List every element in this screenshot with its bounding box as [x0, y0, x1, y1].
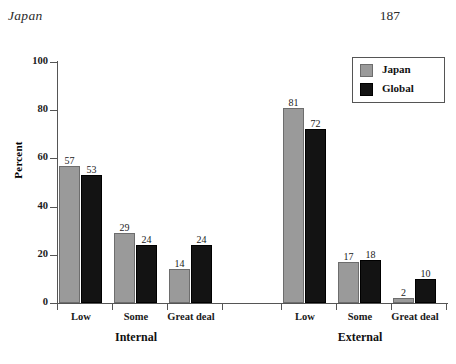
bar-global-internal-great-deal: 24: [191, 245, 212, 303]
y-tick-mark: [50, 207, 58, 208]
y-axis-line: [57, 61, 58, 304]
bar-global-external-low: 72: [305, 129, 326, 303]
bar-value-label: 24: [142, 234, 152, 245]
bar-value-label: 10: [421, 268, 431, 279]
bar-slot: 24: [136, 34, 157, 303]
x-tick-mark: [112, 304, 113, 310]
x-tick-mark: [222, 304, 223, 310]
legend-label: Global: [382, 82, 414, 94]
bar-chart-figure: Percent 020406080100 5753292414248172171…: [0, 34, 456, 364]
chart-legend: JapanGlobal: [352, 57, 445, 103]
y-tick-mark: [50, 62, 58, 63]
bar-slot: 72: [305, 34, 326, 303]
y-tick-label: 100: [2, 55, 48, 66]
legend-swatch-global: [360, 83, 373, 96]
x-group-label: External: [290, 330, 430, 345]
x-tick-mark: [446, 304, 447, 310]
bar-global-internal-low: 53: [81, 175, 102, 303]
bar-slot: 53: [81, 34, 102, 303]
bar-value-label: 14: [175, 258, 185, 269]
bar-slot: 57: [59, 34, 80, 303]
y-tick-label: 0: [2, 296, 48, 307]
legend-label: Japan: [382, 63, 411, 75]
bar-slot: 24: [191, 34, 212, 303]
y-tick-mark: [50, 255, 58, 256]
page-header: Japan 187: [0, 0, 456, 34]
x-tick-mark: [57, 304, 58, 310]
bar-global-external-great-deal: 10: [415, 279, 436, 303]
x-tick-mark: [336, 304, 337, 310]
bar-slot: 14: [169, 34, 190, 303]
bar-global-internal-some: 24: [136, 245, 157, 303]
bar-value-label: 24: [197, 234, 207, 245]
bar-value-label: 29: [120, 222, 130, 233]
bar-slot: 81: [283, 34, 304, 303]
bar-value-label: 57: [65, 155, 75, 166]
x-group-label: Internal: [66, 330, 206, 345]
bar-value-label: 2: [401, 287, 406, 298]
y-tick-label: 20: [2, 248, 48, 259]
bar-value-label: 53: [87, 164, 97, 175]
y-tick-label: 40: [2, 200, 48, 211]
running-head: Japan: [8, 8, 43, 24]
bar-japan-external-some: 17: [338, 262, 359, 303]
x-tick-mark: [167, 304, 168, 310]
bar-japan-internal-some: 29: [114, 233, 135, 303]
bar-japan-external-low: 81: [283, 108, 304, 303]
y-tick-label: 80: [2, 103, 48, 114]
bar-value-label: 72: [311, 118, 321, 129]
legend-swatch-japan: [360, 64, 373, 77]
y-tick-label: 60: [2, 151, 48, 162]
page-number: 187: [380, 8, 400, 24]
y-tick-mark: [50, 110, 58, 111]
bar-japan-internal-low: 57: [59, 166, 80, 303]
bar-japan-external-great-deal: 2: [393, 298, 414, 303]
bar-value-label: 17: [344, 251, 354, 262]
bar-global-external-some: 18: [360, 260, 381, 303]
bar-value-label: 18: [366, 249, 376, 260]
x-category-label: Great deal: [370, 311, 456, 322]
x-category-label: Great deal: [146, 311, 236, 322]
x-axis-line: [57, 303, 448, 304]
bar-slot: 29: [114, 34, 135, 303]
x-tick-mark: [391, 304, 392, 310]
y-tick-mark: [50, 158, 58, 159]
bar-japan-internal-great-deal: 14: [169, 269, 190, 303]
x-tick-mark: [281, 304, 282, 310]
bar-value-label: 81: [289, 97, 299, 108]
